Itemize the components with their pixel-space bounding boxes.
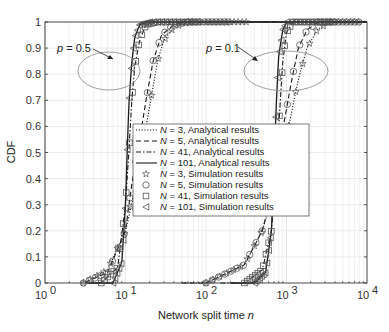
legend-entry-label: N = 41, Simulation results: [160, 190, 269, 201]
x-tick-label: 10: [115, 289, 127, 301]
ellipse-p01: [244, 51, 328, 91]
y-tick-label: 0.6: [26, 120, 41, 132]
x-tick-label: 10: [196, 289, 208, 301]
y-tick-label: 1: [35, 16, 41, 28]
circle-marker-icon: [156, 39, 162, 45]
x-tick-exponent: 3: [292, 284, 298, 296]
legend-entry-label: N = 101, Simulation results: [160, 201, 274, 212]
cdf-chart: 00.10.20.30.40.50.60.70.80.91 1001011021…: [0, 0, 389, 332]
legend-entry-label: N = 101, Analytical results: [160, 157, 270, 168]
legend-entry-label: N = 3, Simulation results: [160, 168, 263, 179]
x-tick-exponent: 1: [131, 284, 137, 296]
circle-marker-icon: [297, 42, 303, 48]
y-tick-label: 0: [35, 277, 41, 289]
legend-entry-label: N = 5, Simulation results: [160, 179, 263, 190]
legend-entry-label: N = 5, Analytical results: [160, 135, 259, 146]
legend-entry-label: N = 41, Analytical results: [160, 146, 265, 157]
y-tick-label: 0.4: [26, 173, 41, 185]
star-marker-icon: [292, 88, 299, 95]
y-tick-label: 0.2: [26, 225, 41, 237]
star-marker-icon: [162, 35, 169, 42]
annotation-p01-label: p = 0.1: [205, 42, 240, 54]
x-tick-exponent: 0: [50, 284, 56, 296]
annotation-p05-label: p = 0.5: [56, 42, 91, 54]
annotation-p01: p = 0.1: [205, 42, 328, 91]
x-tick-exponent: 4: [372, 284, 378, 296]
star-marker-icon: [306, 40, 313, 47]
x-axis-label: Network split time n: [158, 309, 254, 321]
x-tick-label: 10: [276, 289, 288, 301]
legend-entry-label: N = 3, Analytical results: [160, 124, 259, 135]
circle-marker-icon: [303, 29, 309, 35]
y-tick-label: 0.7: [26, 94, 41, 106]
annotation-p05: p = 0.5: [56, 42, 140, 90]
y-tick-label: 0.8: [26, 68, 41, 80]
legend: N = 3, Analytical resultsN = 5, Analytic…: [133, 124, 309, 216]
x-tick-label: 10: [35, 289, 47, 301]
y-tick-label: 0.9: [26, 42, 41, 54]
star-marker-icon: [223, 270, 230, 277]
y-axis-label: CDF: [5, 140, 17, 163]
x-tick-exponent: 2: [211, 284, 217, 296]
y-tick-label: 0.3: [26, 199, 41, 211]
y-tick-label: 0.1: [26, 251, 41, 263]
y-tick-label: 0.5: [26, 147, 41, 159]
x-tick-label: 10: [357, 289, 369, 301]
star-marker-icon: [169, 26, 176, 33]
